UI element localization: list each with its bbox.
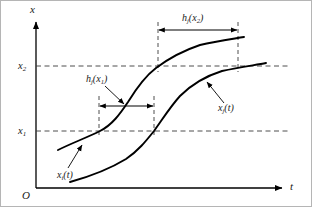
measure-label-h-x2-close: ) (200, 12, 203, 23)
curve-label-xi: xi(t) (57, 170, 73, 180)
origin-label: O (22, 190, 30, 201)
tick-label-x1-base: x (18, 125, 23, 136)
tick-label-x1: x1 (18, 126, 26, 137)
measure-label-h-x1-close: ) (104, 73, 107, 84)
measure-label-h-x1-open: (x (93, 73, 101, 84)
curve-label-xj: xj(t) (218, 103, 234, 113)
leader-curve-xj (207, 82, 224, 103)
tick-label-x2: x2 (18, 61, 26, 72)
leader-h-x1 (105, 86, 124, 104)
measure-label-h-x1-sub: j (91, 78, 93, 85)
curve-label-xj-suffix: (t) (224, 102, 233, 113)
figure-container: x t O x2 x1 hj(x1) hj(x2) xi(t) xj(t) (0, 0, 312, 207)
figure-border (1, 1, 312, 207)
leader-curve-xi (68, 145, 82, 168)
curve-label-xi-suffix: (t) (63, 169, 72, 180)
tick-label-x1-sub: 1 (23, 130, 26, 137)
measure-label-h-x1: hj(x1) (86, 74, 107, 84)
measure-label-h-x2-open: (x (189, 12, 197, 23)
tick-label-x2-sub: 2 (23, 65, 26, 72)
x-axis-label: x (30, 4, 35, 15)
measure-label-h-x2: hj(x2) (182, 13, 203, 23)
measure-label-h-x1-arg: 1 (101, 78, 104, 85)
tick-label-x2-base: x (18, 60, 23, 71)
diagram-canvas (0, 0, 312, 207)
t-axis-label: t (290, 181, 293, 192)
measure-label-h-x2-arg: 2 (197, 17, 200, 24)
measure-label-h-x2-sub: j (187, 17, 189, 24)
